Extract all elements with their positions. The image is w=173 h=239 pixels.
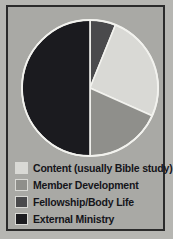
pie-chart-figure: Content (usually Bible study) Member Dev… xyxy=(0,0,173,239)
legend-label-content: Content (usually Bible study) xyxy=(33,162,172,174)
pie-slice-group xyxy=(22,20,158,156)
legend-label-external-ministry: External Ministry xyxy=(33,213,114,225)
legend-item-external-ministry: External Ministry xyxy=(12,210,163,227)
legend-swatch-member-development xyxy=(15,179,28,191)
legend-label-member-development: Member Development xyxy=(33,179,139,191)
legend-item-content: Content (usually Bible study) xyxy=(12,159,163,176)
figure-frame: Content (usually Bible study) Member Dev… xyxy=(6,5,165,231)
legend-swatch-content xyxy=(15,162,28,174)
chart-legend: Content (usually Bible study) Member Dev… xyxy=(12,159,163,229)
legend-swatch-fellowship-body-life xyxy=(15,196,28,208)
pie-chart-svg xyxy=(8,7,163,157)
pie-slice-external-ministry xyxy=(22,20,90,156)
legend-item-fellowship-body-life: Fellowship/Body Life xyxy=(12,193,163,210)
legend-item-member-development: Member Development xyxy=(12,176,163,193)
legend-label-fellowship-body-life: Fellowship/Body Life xyxy=(33,196,134,208)
pie-chart-area xyxy=(8,7,163,157)
legend-swatch-external-ministry xyxy=(15,213,28,225)
